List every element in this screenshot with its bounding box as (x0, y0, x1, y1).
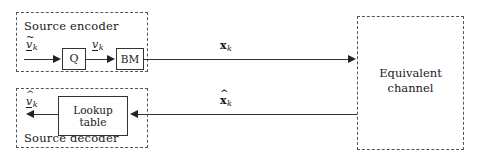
line-decoder-output (30, 114, 58, 115)
arrowhead-decoder-output (26, 110, 34, 118)
signal-subscript: k (227, 99, 232, 108)
signal-glyph-x-bold: x (220, 40, 227, 51)
hat-accent-icon: ^ (220, 88, 227, 98)
arrowhead-into-bitmapper (107, 55, 115, 63)
signal-glyph-v: v (92, 39, 98, 51)
signal-subscript: k (227, 44, 232, 53)
signal-base-letter: v (92, 38, 98, 51)
signal-base-letter: x (220, 39, 227, 52)
signal-label-channel-input: xk (220, 40, 232, 53)
signal-glyph-v-hat: ^v (26, 96, 32, 108)
source-encoder-caption: Source encoder (24, 19, 119, 33)
signal-subscript: k (33, 43, 38, 52)
hat-accent-icon: ^ (26, 89, 32, 99)
arrowhead-into-channel (348, 55, 356, 63)
signal-glyph-v-tilde: ~v (26, 39, 32, 51)
block-diagram: Source encoder ~vk Q vk BM xk Equivalent… (0, 0, 485, 160)
block-bit-mapper[interactable]: BM (116, 48, 144, 70)
line-quantizer-to-bitmapper (86, 59, 108, 60)
block-lookup-table[interactable]: Lookup table (58, 96, 128, 136)
signal-label-encoder-input: ~vk (26, 39, 38, 52)
arrowhead-into-quantizer (53, 55, 61, 63)
signal-subscript: k (99, 43, 104, 52)
tilde-accent-icon: ~ (26, 32, 32, 42)
signal-subscript: k (33, 100, 38, 109)
block-quantizer[interactable]: Q (62, 48, 86, 70)
signal-label-channel-output: ^xk (220, 95, 232, 108)
signal-label-decoder-output: ^vk (26, 96, 38, 109)
line-channel-output (134, 114, 357, 115)
signal-label-quantizer-output: vk (92, 39, 104, 52)
line-encoder-input (24, 59, 54, 60)
line-channel-input (144, 59, 349, 60)
signal-glyph-x-hat-bold: ^x (220, 95, 227, 106)
equivalent-channel-label: Equivalent channel (357, 66, 464, 96)
